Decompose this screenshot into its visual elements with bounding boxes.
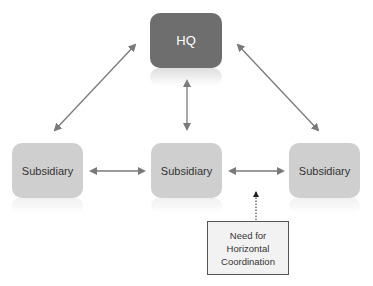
subsidiary-middle-label: Subsidiary <box>161 165 212 177</box>
arrow-hq-left <box>55 45 135 130</box>
hq-reflection <box>150 68 222 86</box>
hq-label: HQ <box>176 33 196 48</box>
hq-node: HQ <box>150 13 222 68</box>
subsidiary-middle-node: Subsidiary <box>151 143 222 198</box>
subsidiary-left-node: Subsidiary <box>12 143 83 198</box>
subsidiary-right-node: Subsidiary <box>289 143 360 198</box>
coordination-callout: Need for Horizontal Coordination <box>207 221 289 275</box>
subsidiary-right-reflection <box>289 198 360 214</box>
callout-line-3: Coordination <box>221 255 275 268</box>
subsidiary-left-label: Subsidiary <box>22 165 73 177</box>
subsidiary-middle-reflection <box>151 198 222 214</box>
callout-line-1: Need for <box>221 229 275 242</box>
arrow-hq-right <box>238 45 318 130</box>
subsidiary-left-reflection <box>12 198 83 214</box>
subsidiary-right-label: Subsidiary <box>299 165 350 177</box>
callout-line-2: Horizontal <box>221 242 275 255</box>
